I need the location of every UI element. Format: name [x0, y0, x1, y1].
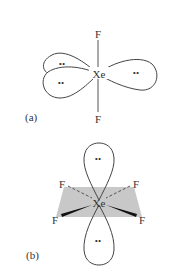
figure-label-b: (b) — [26, 249, 39, 262]
atom-f-front-right: F — [139, 214, 145, 226]
figure-label-a: (a) — [25, 111, 38, 124]
xenon-geometry-diagram: F Xe F •• •• •• (a) Xe F F F F •• •• (b) — [0, 0, 183, 278]
atom-f-front-left: F — [52, 214, 58, 226]
figure-b: Xe F F F F •• •• (b) — [26, 143, 145, 265]
atom-xe: Xe — [93, 68, 106, 80]
atom-f-top: F — [95, 28, 101, 40]
lone-pair-dots: •• — [58, 78, 64, 88]
lone-pair-dots: •• — [59, 59, 65, 69]
atom-f-back-right: F — [133, 178, 139, 190]
lone-pair-dots: •• — [95, 154, 101, 164]
figure-a: F Xe F •• •• •• (a) — [25, 28, 157, 125]
lone-pair-dots: •• — [133, 68, 139, 78]
atom-f-back-left: F — [59, 178, 65, 190]
atom-f-bottom: F — [95, 113, 101, 125]
atom-xe: Xe — [93, 197, 106, 209]
lone-pair-dots: •• — [95, 236, 101, 246]
